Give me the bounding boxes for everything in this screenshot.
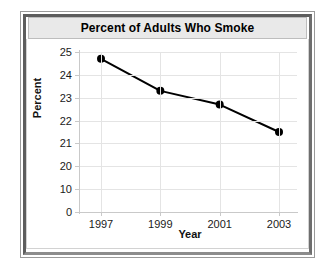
y-axis-tick-label: 24	[60, 69, 72, 81]
y-axis-line	[79, 50, 80, 214]
gridline-horizontal	[79, 166, 297, 167]
x-axis-line	[79, 212, 298, 213]
gridline-vertical	[279, 52, 280, 212]
gridline-horizontal	[79, 52, 297, 53]
chart-title-banner: Percent of Adults Who Smoke	[28, 17, 307, 39]
gridline-vertical	[160, 52, 161, 212]
gridline-vertical	[220, 52, 221, 212]
gridline-vertical	[101, 52, 102, 212]
y-axis-tick-label: 25	[60, 46, 72, 58]
y-axis-tick-label: 10	[60, 183, 72, 195]
plot-area: 2524232221201001997199920012003	[79, 52, 297, 212]
x-axis-title: Year	[80, 228, 300, 240]
gridline-horizontal	[79, 98, 297, 99]
gridline-horizontal	[79, 121, 297, 122]
y-axis-tick-label: 22	[60, 115, 72, 127]
y-axis-tick-label: 23	[60, 92, 72, 104]
gridline-horizontal	[79, 75, 297, 76]
gridline-horizontal	[79, 189, 297, 190]
y-axis-tick-label: 21	[60, 137, 72, 149]
y-axis-tick-label: 20	[60, 160, 72, 172]
gridline-horizontal	[79, 143, 297, 144]
line-series	[79, 52, 297, 212]
y-axis-title: Percent	[31, 63, 43, 133]
y-axis-tick-label: 0	[66, 206, 72, 218]
chart-title: Percent of Adults Who Smoke	[81, 21, 255, 35]
